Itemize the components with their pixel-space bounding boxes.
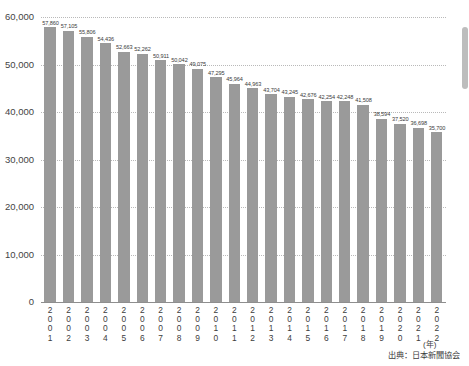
bar [376, 119, 387, 302]
y-axis-tick-label: 30,000 [0, 154, 34, 165]
x-axis-tick-label: 2018 [354, 306, 372, 343]
bar [265, 94, 276, 302]
bar [100, 43, 111, 302]
bar-value-label: 38,594 [374, 111, 391, 117]
bar-item: 45,964 [229, 17, 240, 302]
y-axis-tick-label: 40,000 [0, 106, 34, 117]
bar [173, 64, 184, 302]
bar-value-label: 47,295 [208, 70, 225, 76]
bar-item: 52,262 [137, 17, 148, 302]
x-axis-tick-label: 2019 [372, 306, 390, 343]
bar-item: 57,860 [44, 17, 55, 302]
bar [44, 27, 55, 302]
bar-item: 44,963 [247, 17, 258, 302]
x-axis-tick-label: 2015 [299, 306, 317, 343]
gridline [41, 302, 446, 303]
bar [431, 132, 442, 302]
x-axis-tick-label: 2013 [262, 306, 280, 343]
bar-value-label: 36,698 [410, 120, 427, 126]
bar-item: 57,105 [63, 17, 74, 302]
bar [284, 97, 295, 302]
x-axis-tick-labels: 2001200220032004200520062007200820092010… [41, 306, 446, 352]
scrollbar-thumb[interactable] [462, 27, 468, 89]
bar-item: 47,295 [210, 17, 221, 302]
bar-item: 35,700 [431, 17, 442, 302]
bar [210, 77, 221, 302]
x-axis-tick-label: 2017 [336, 306, 354, 343]
bar [137, 54, 148, 302]
bar-value-label: 37,520 [392, 116, 409, 122]
bar [155, 60, 166, 302]
bar-value-label: 52,262 [134, 46, 151, 52]
y-axis-tick-label: 60,000 [0, 11, 34, 22]
bar-item: 42,248 [339, 17, 350, 302]
bar-value-label: 41,508 [355, 97, 372, 103]
x-axis-tick-label: 2002 [59, 306, 77, 343]
bar-value-label: 50,042 [171, 57, 188, 63]
x-axis-tick-label: 2007 [151, 306, 169, 343]
bar [63, 31, 74, 302]
x-axis-tick-label: 2020 [391, 306, 409, 343]
plot-area: 57,86057,10555,80654,43652,66352,26250,9… [41, 17, 446, 302]
bar-item: 36,698 [413, 17, 424, 302]
bar [81, 37, 92, 302]
bar-value-label: 54,436 [97, 36, 114, 42]
bar-item: 43,245 [284, 17, 295, 302]
bar [394, 124, 405, 302]
bar-item: 54,436 [100, 17, 111, 302]
x-axis-tick-label: 2016 [317, 306, 335, 343]
x-axis-tick-label: 2001 [41, 306, 59, 343]
bar-item: 38,594 [376, 17, 387, 302]
bar-item: 43,704 [265, 17, 276, 302]
bar-value-label: 42,254 [318, 94, 335, 100]
bar-value-label: 57,860 [42, 20, 59, 26]
bar-value-label: 49,075 [190, 61, 207, 67]
bar-chart: 60,00050,00040,00030,00020,00010,0000 57… [0, 0, 469, 366]
bar-value-label: 55,806 [79, 29, 96, 35]
bar-item: 50,042 [173, 17, 184, 302]
bar-value-label: 50,911 [153, 53, 169, 59]
x-axis-tick-label: 2003 [78, 306, 96, 343]
bar [357, 105, 368, 302]
bar-value-label: 45,964 [226, 76, 243, 82]
y-axis-tick-label: 10,000 [0, 249, 34, 260]
bar [413, 128, 424, 302]
scrollbar-track[interactable] [460, 0, 469, 366]
x-axis-tick-label: 2008 [170, 306, 188, 343]
x-axis-tick-label: 2005 [115, 306, 133, 343]
bar [192, 69, 203, 302]
bar [229, 84, 240, 302]
bar-item: 52,663 [118, 17, 129, 302]
y-axis-tick-label: 20,000 [0, 201, 34, 212]
x-axis-tick-label: 2004 [96, 306, 114, 343]
bar [339, 101, 350, 302]
bar-item: 49,075 [192, 17, 203, 302]
bar [321, 101, 332, 302]
source-credit: 出典：日本新聞協会 [388, 348, 460, 360]
bar-value-label: 57,105 [61, 23, 78, 29]
bar-value-label: 43,704 [263, 87, 280, 93]
bar-item: 50,911 [155, 17, 166, 302]
bar-value-label: 42,676 [300, 92, 317, 98]
bar-item: 55,806 [81, 17, 92, 302]
bar-value-label: 43,245 [282, 89, 299, 95]
bar-value-label: 52,663 [116, 44, 133, 50]
y-axis-tick-label: 0 [0, 296, 34, 307]
bar [118, 52, 129, 302]
bar-item: 37,520 [394, 17, 405, 302]
bar-value-label: 42,248 [337, 94, 354, 100]
x-axis-tick-label: 2009 [188, 306, 206, 343]
x-axis-tick-label: 2006 [133, 306, 151, 343]
bar [302, 99, 313, 302]
bar-series: 57,86057,10555,80654,43652,66352,26250,9… [41, 17, 446, 302]
bar-value-label: 44,963 [245, 81, 262, 87]
x-axis-tick-label: 2010 [207, 306, 225, 343]
x-axis-tick-label: 2011 [225, 306, 243, 343]
bar [247, 88, 258, 302]
x-axis-tick-label: 2014 [280, 306, 298, 343]
bar-item: 41,508 [357, 17, 368, 302]
bar-item: 42,676 [302, 17, 313, 302]
x-axis-tick-label: 2012 [244, 306, 262, 343]
bar-item: 42,254 [321, 17, 332, 302]
bar-value-label: 35,700 [429, 125, 446, 131]
